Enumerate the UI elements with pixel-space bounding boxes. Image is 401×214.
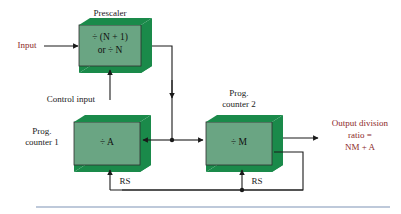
output-label-line2: ratio =: [322, 130, 398, 141]
prescaler-body-line1: ÷ (N + 1): [79, 32, 141, 43]
prog-counter-1-body: ÷ A: [74, 137, 140, 148]
prescaler-body-line2: or ÷ N: [79, 45, 141, 56]
diagram-graphics: [0, 0, 401, 214]
rs-right-label: RS: [246, 176, 268, 187]
junction-dot-split: [170, 138, 174, 142]
prog-counter-2-body: ÷ M: [206, 137, 272, 148]
prog-counter-2-caption-line2: counter 2: [211, 99, 267, 110]
prog-counter-1-caption-line2: counter 1: [14, 137, 70, 148]
control-input-label: Control input: [36, 94, 106, 105]
prog-counter-2-caption-line1: Prog.: [211, 88, 267, 99]
rs-left-label: RS: [114, 176, 136, 187]
junction-dot-rs-bus: [240, 188, 244, 192]
input-label: Input: [10, 40, 44, 51]
output-label-line1: Output division: [322, 118, 398, 129]
prescaler-caption: Prescaler: [80, 8, 140, 19]
prog-counter-1-caption-line1: Prog.: [14, 126, 70, 137]
diagram-canvas: Prescaler ÷ (N + 1) or ÷ N Input Control…: [0, 0, 401, 214]
output-label-line3: NM + A: [322, 142, 398, 153]
prescaler-output-wire: [152, 46, 172, 140]
